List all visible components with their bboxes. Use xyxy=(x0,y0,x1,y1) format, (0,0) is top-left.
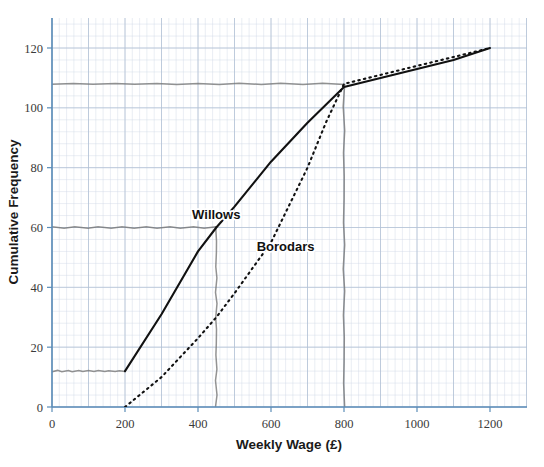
y-tick-label: 120 xyxy=(24,42,43,56)
grid-major xyxy=(52,18,527,407)
upper-vertical xyxy=(343,84,345,408)
series-annotations: WillowsWillowsBorodarsBorodars xyxy=(192,207,314,255)
borodars-label: Borodars xyxy=(257,239,315,254)
x-axis-title: Weekly Wage (£) xyxy=(236,437,342,452)
y-axis-ticks: 020406080100120 xyxy=(24,42,52,415)
y-tick-label: 100 xyxy=(24,101,43,115)
y-tick-label: 20 xyxy=(31,341,44,355)
x-tick-label: 800 xyxy=(335,417,354,431)
y-axis-title: Cumulative Frequency xyxy=(6,139,21,284)
grid-minor xyxy=(52,18,527,407)
chart-canvas: 020040060080010001200 020406080100120 We… xyxy=(0,0,544,467)
willows-label: Willows xyxy=(192,207,240,222)
cumulative-frequency-chart: 020040060080010001200 020406080100120 We… xyxy=(0,0,544,467)
y-tick-label: 0 xyxy=(37,401,43,415)
x-tick-label: 400 xyxy=(189,417,208,431)
x-tick-label: 1200 xyxy=(478,417,503,431)
x-tick-label: 0 xyxy=(49,417,55,431)
y-tick-label: 60 xyxy=(31,221,44,235)
y-tick-label: 80 xyxy=(31,161,44,175)
x-tick-label: 1000 xyxy=(405,417,430,431)
x-axis-ticks: 020040060080010001200 xyxy=(49,407,503,431)
x-tick-label: 200 xyxy=(116,417,135,431)
x-tick-label: 600 xyxy=(262,417,281,431)
median-willows-vertical xyxy=(216,227,218,407)
y-tick-label: 40 xyxy=(31,281,44,295)
